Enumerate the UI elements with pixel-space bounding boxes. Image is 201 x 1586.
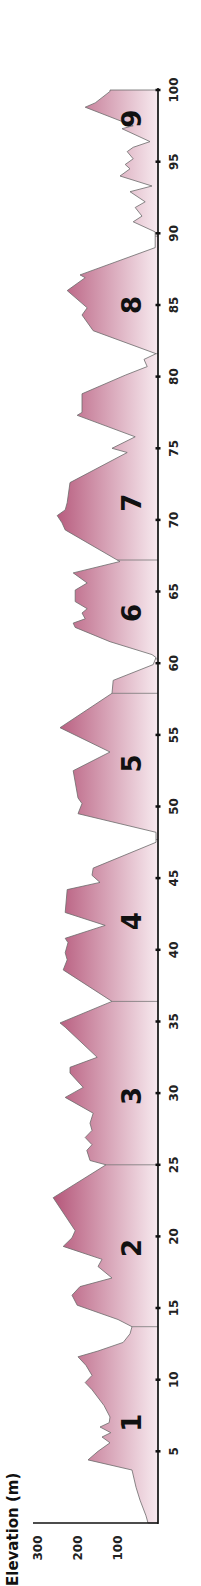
x-tick-label-50: 50 bbox=[167, 798, 181, 815]
y-tick-300: 300 bbox=[31, 1535, 45, 1560]
stage-label-4: 4 bbox=[117, 912, 147, 930]
x-tick-label-15: 15 bbox=[167, 1300, 181, 1317]
x-tick-label-95: 95 bbox=[167, 153, 181, 170]
stage-label-7: 7 bbox=[117, 494, 147, 512]
x-tick-label-35: 35 bbox=[167, 1013, 181, 1030]
y-ticks: 300 200 100 bbox=[31, 1535, 125, 1560]
y-tick-200: 200 bbox=[71, 1535, 85, 1560]
y-axis-title: Elevation (m) bbox=[4, 1473, 22, 1586]
x-tick-label-75: 75 bbox=[167, 440, 181, 457]
stage-label-2: 2 bbox=[117, 1239, 147, 1257]
x-tick-label-100: 100 bbox=[167, 77, 181, 102]
stage-label-9: 9 bbox=[117, 110, 147, 128]
y-tick-100: 100 bbox=[111, 1535, 125, 1560]
x-tick-label-90: 90 bbox=[167, 225, 181, 242]
x-tick-label-60: 60 bbox=[167, 655, 181, 672]
stage-label-3: 3 bbox=[117, 1087, 147, 1105]
x-tick-label-25: 25 bbox=[167, 1156, 181, 1173]
x-tick-label-20: 20 bbox=[167, 1228, 181, 1245]
x-ticks: 5101520253035404550556065707580859095100 bbox=[156, 77, 182, 1455]
x-tick-label-5: 5 bbox=[167, 1447, 181, 1455]
stage-label-6: 6 bbox=[117, 604, 147, 622]
x-tick-label-30: 30 bbox=[167, 1085, 181, 1102]
x-tick-label-70: 70 bbox=[167, 512, 181, 529]
stage-label-1: 1 bbox=[117, 1414, 147, 1432]
stage-label-8: 8 bbox=[117, 296, 147, 314]
x-tick-label-65: 65 bbox=[167, 583, 181, 600]
stage-label-5: 5 bbox=[117, 754, 147, 772]
x-tick-label-40: 40 bbox=[167, 941, 181, 958]
x-tick-label-80: 80 bbox=[167, 368, 181, 385]
x-tick-label-45: 45 bbox=[167, 870, 181, 887]
x-tick-label-85: 85 bbox=[167, 297, 181, 314]
x-tick-label-55: 55 bbox=[167, 727, 181, 744]
elevation-profile-chart: 123456789 510152025303540455055606570758… bbox=[0, 0, 201, 1586]
x-tick-label-10: 10 bbox=[167, 1371, 181, 1388]
